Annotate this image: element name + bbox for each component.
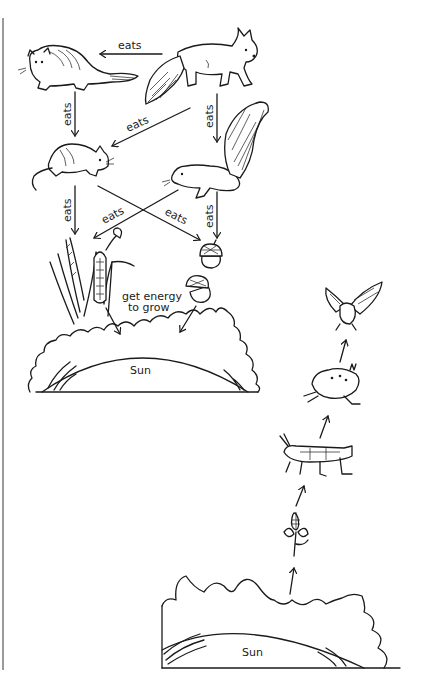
- sun-icon-web: Sun: [28, 308, 259, 392]
- hawk-icon: [326, 282, 382, 330]
- eats-label: eats: [203, 204, 216, 228]
- arrow-plants-energy: [106, 308, 120, 334]
- grasshopper-icon: [280, 434, 352, 476]
- eats-label: eats: [203, 104, 216, 128]
- arrow-grasshopper-to-frog: [320, 416, 328, 438]
- eats-label: eats: [163, 205, 190, 227]
- diagram-canvas: Sun eats eats eats eats eats eats eats e…: [0, 0, 424, 694]
- sun-icon-chain: Sun: [162, 576, 400, 668]
- eats-label: eats: [124, 113, 151, 135]
- arrow-sun-to-clover: [290, 568, 294, 594]
- clover-icon: [284, 512, 308, 556]
- mouse-icon: [32, 144, 114, 190]
- fox-icon: [146, 28, 258, 104]
- arrow-clover-to-grasshopper: [296, 486, 304, 506]
- arrow-acorns-energy: [180, 306, 196, 332]
- food-chain: Sun: [162, 282, 400, 668]
- arrow-fox-to-mouse: [112, 108, 190, 146]
- sun-label-chain: Sun: [242, 646, 263, 659]
- eats-label: eats: [118, 39, 142, 52]
- food-web: Sun eats eats eats eats eats eats eats e…: [18, 28, 268, 392]
- arrow-frog-to-hawk: [340, 340, 346, 362]
- sun-label-web: Sun: [130, 364, 151, 377]
- eats-label: eats: [61, 198, 74, 222]
- grass-corn-icon: [50, 228, 134, 324]
- eats-label: eats: [99, 204, 126, 227]
- weasel-icon: [18, 46, 138, 91]
- frog-icon: [304, 364, 360, 404]
- eats-label: eats: [61, 102, 74, 126]
- acorns-icon: [186, 240, 222, 302]
- energy-label-line2: to grow: [128, 301, 170, 314]
